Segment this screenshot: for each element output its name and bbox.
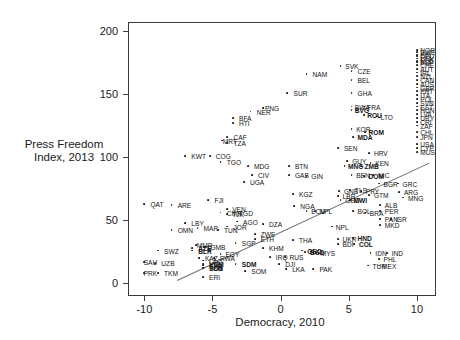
data-point — [370, 252, 372, 254]
data-point — [288, 174, 290, 176]
point-label: SWZ — [164, 247, 179, 254]
data-point — [232, 117, 234, 119]
point-label: KHM — [269, 245, 284, 252]
point-label: FJI — [214, 197, 223, 204]
data-point — [416, 121, 418, 123]
data-point — [232, 122, 234, 124]
data-point — [284, 256, 286, 258]
point-label: IRQ — [276, 253, 288, 260]
data-point — [397, 183, 399, 185]
data-point — [244, 270, 246, 272]
point-label: GHA — [358, 89, 372, 96]
data-point — [416, 68, 418, 70]
point-label: CZE — [358, 68, 371, 75]
point-label: BTN — [295, 162, 308, 169]
data-point — [363, 115, 365, 117]
data-point — [312, 269, 314, 271]
data-point — [262, 247, 264, 249]
data-point — [171, 204, 173, 206]
data-point — [416, 60, 418, 62]
data-point — [227, 136, 229, 138]
data-point — [349, 199, 351, 201]
point-label: LBY — [191, 219, 203, 226]
data-point — [416, 109, 418, 111]
data-point — [202, 264, 204, 266]
point-label: ROM — [368, 128, 383, 135]
point-label: PRK — [144, 270, 158, 277]
point-label: TGO — [227, 159, 241, 166]
data-point — [364, 212, 366, 214]
data-point — [220, 253, 222, 255]
data-point — [363, 175, 365, 177]
data-point — [191, 250, 193, 252]
data-point — [332, 226, 334, 228]
point-label: KEN — [375, 160, 389, 167]
data-point — [416, 113, 418, 115]
data-point — [416, 91, 418, 93]
data-point — [416, 54, 418, 56]
data-point — [235, 264, 237, 266]
point-label: JPN — [420, 133, 432, 140]
point-label: UZB — [161, 260, 174, 267]
data-point — [360, 165, 362, 167]
point-label: CYP — [420, 145, 434, 152]
point-label: VNM — [209, 261, 224, 268]
data-point — [416, 87, 418, 89]
data-point — [157, 250, 159, 252]
point-label: OMN — [178, 227, 193, 234]
point-label: ZAF — [420, 122, 432, 129]
point-label: HTI — [239, 120, 250, 127]
data-point — [416, 72, 418, 74]
point-label: SUR — [294, 89, 308, 96]
point-label: GTM — [374, 191, 389, 198]
data-point — [402, 197, 404, 199]
point-label: GIN — [311, 173, 323, 180]
data-point — [416, 64, 418, 66]
data-point — [390, 218, 392, 220]
data-point — [337, 195, 339, 197]
point-label: LTO — [381, 113, 393, 120]
point-label: ROU — [367, 112, 382, 119]
data-point — [293, 205, 295, 207]
data-point — [416, 147, 418, 149]
data-point — [184, 222, 186, 224]
point-label: BDI — [343, 241, 354, 248]
data-point — [416, 58, 418, 60]
data-point — [351, 174, 353, 176]
data-point — [351, 128, 353, 130]
data-point — [304, 251, 306, 253]
data-point — [269, 256, 271, 258]
data-point — [364, 131, 366, 133]
data-point — [340, 65, 342, 67]
point-label: PER — [385, 208, 399, 215]
data-point — [254, 233, 256, 235]
data-point — [171, 229, 173, 231]
point-label: ARG — [404, 189, 418, 196]
point-label: MEX — [382, 262, 396, 269]
data-point — [198, 257, 200, 259]
data-point — [306, 175, 308, 177]
data-point — [416, 79, 418, 81]
data-point — [157, 272, 159, 274]
data-point — [209, 155, 211, 157]
point-label: MKD — [385, 222, 400, 229]
data-point — [416, 136, 418, 138]
data-point — [367, 265, 369, 267]
data-point — [227, 142, 229, 144]
data-point — [378, 258, 380, 260]
data-point — [398, 192, 400, 194]
data-point — [416, 106, 418, 108]
data-point — [306, 210, 308, 212]
data-point — [351, 92, 353, 94]
data-point — [217, 229, 219, 231]
data-point — [360, 190, 362, 192]
data-point — [352, 136, 354, 138]
point-label: GRC — [403, 180, 418, 187]
data-point — [352, 237, 354, 239]
data-point — [337, 238, 339, 240]
data-point — [416, 83, 418, 85]
point-label: ERI — [209, 274, 220, 281]
data-point — [338, 190, 340, 192]
data-point — [416, 94, 418, 96]
point-label: FRA — [367, 103, 380, 110]
